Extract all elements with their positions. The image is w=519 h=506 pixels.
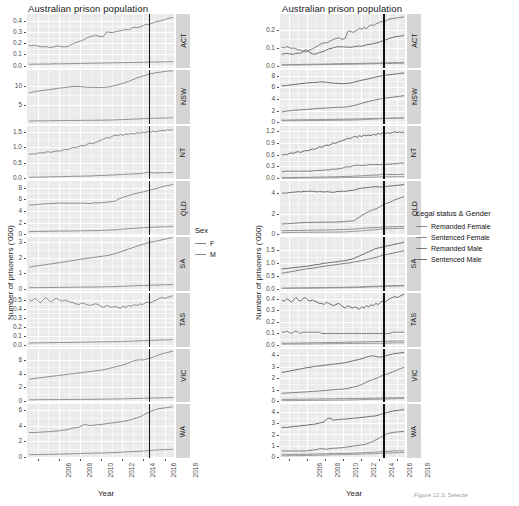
y-axis-tick-label: 0.5	[4, 159, 22, 166]
series-line-remanded-male	[282, 95, 404, 111]
annotation-vertical-line	[149, 349, 151, 403]
y-axis-tick-label: 0.1	[4, 50, 22, 57]
x-axis-tick-label: 2018	[192, 463, 199, 487]
y-axis-tick-label: 4	[257, 351, 275, 358]
y-axis-tick-mark	[24, 374, 26, 375]
facet-panel-act	[27, 14, 174, 68]
y-axis-tick-label: 8	[4, 184, 22, 191]
y-axis-tick-mark	[277, 299, 279, 300]
facet-strip-qld: QLD	[176, 181, 190, 235]
y-axis-tick-label: 1.0	[4, 143, 22, 150]
annotation-vertical-line	[383, 181, 385, 235]
facet-panel-sa	[280, 237, 405, 291]
facet-panel-nsw	[280, 70, 405, 124]
y-axis-tick-label: 4	[4, 370, 22, 377]
x-axis-tick-label: 2010	[352, 463, 359, 487]
plot-area	[280, 404, 405, 458]
facet-strip-act: ACT	[176, 14, 190, 68]
y-axis-tick-label: 0	[4, 397, 22, 404]
facet-strip-nsw: NSW	[176, 70, 190, 124]
y-axis-tick-label: 0.0	[257, 341, 275, 348]
x-axis-tick-mark	[101, 459, 102, 461]
series-line-m	[29, 407, 173, 433]
plot-area	[27, 126, 174, 180]
y-axis-tick-mark	[277, 234, 279, 235]
facet-panel-nt	[280, 126, 405, 180]
plot-area	[280, 70, 405, 124]
facet-strip-label: WA	[410, 425, 417, 436]
legend-key-swatch	[416, 237, 427, 239]
series-line-sentenced-male	[282, 131, 404, 154]
facet-strip-label: ACT	[411, 34, 418, 49]
y-axis-tick-label: 6	[4, 406, 22, 413]
series-line-f	[29, 118, 173, 121]
y-axis-tick-mark	[24, 147, 26, 148]
y-axis-tick-label: 0.2	[4, 323, 22, 330]
x-axis-tick-label: 2016	[170, 463, 177, 487]
right-plot-x-axis-title: Year	[346, 489, 362, 498]
y-axis-tick-mark	[24, 66, 26, 67]
y-axis-tick-mark	[277, 423, 279, 424]
y-axis-tick-label: 0.4	[4, 17, 22, 24]
y-axis-tick-label: 0	[257, 397, 275, 404]
plot-area	[27, 14, 174, 68]
annotation-vertical-line	[149, 181, 151, 235]
series-layer	[27, 237, 174, 291]
y-axis-tick-mark	[277, 99, 279, 100]
plot-area	[280, 14, 405, 68]
y-axis-tick-mark	[277, 66, 279, 67]
series-layer	[27, 404, 174, 458]
y-axis-tick-label: 0.1	[4, 332, 22, 339]
x-axis-tick-label: 2016	[406, 463, 413, 487]
y-axis-tick-mark	[277, 111, 279, 112]
y-axis-tick-label: 0	[4, 285, 22, 292]
y-axis-tick-mark	[277, 193, 279, 194]
legend-item[interactable]: F	[195, 238, 216, 249]
y-axis-tick-mark	[24, 300, 26, 301]
y-axis-tick-mark	[24, 54, 26, 55]
y-axis-tick-label: 0.6	[257, 151, 275, 158]
y-axis-tick-mark	[277, 310, 279, 311]
annotation-vertical-line	[383, 237, 385, 291]
legend-item[interactable]: Sentenced Female	[416, 232, 491, 243]
y-axis-tick-label: 0	[4, 453, 22, 460]
y-axis-tick-label: 0.2	[257, 318, 275, 325]
y-axis-tick-mark	[277, 289, 279, 290]
series-layer	[280, 70, 405, 124]
legend-title: Legal status & Gender	[416, 209, 491, 218]
series-layer	[27, 126, 174, 180]
legend-item-label: F	[210, 240, 214, 247]
series-layer	[280, 14, 405, 68]
y-axis-tick-label: 10	[4, 82, 22, 89]
y-axis-tick-mark	[277, 367, 279, 368]
y-axis-tick-mark	[24, 234, 26, 235]
series-line-sentenced-male	[282, 185, 404, 194]
legend-item[interactable]: Sentenced Male	[416, 254, 491, 265]
plot-area	[280, 293, 405, 347]
x-axis-tick-mark	[343, 459, 344, 461]
y-axis-tick-mark	[277, 122, 279, 123]
y-axis-tick-mark	[24, 410, 26, 411]
legend-item[interactable]: Remanded Male	[416, 243, 491, 254]
x-axis-tick-label: 2010	[107, 463, 114, 487]
y-axis-tick-mark	[277, 412, 279, 413]
annotation-vertical-line	[383, 293, 385, 347]
y-axis-tick-mark	[24, 258, 26, 259]
figure-caption: Figure 12.3: Selecte	[414, 492, 468, 498]
y-axis-tick-label: 0.3	[257, 306, 275, 313]
y-axis-tick-label: 0.5	[257, 272, 275, 279]
series-line-f	[29, 285, 173, 288]
annotation-vertical-line	[149, 14, 151, 68]
facet-panel-qld	[27, 181, 174, 235]
annotation-vertical-line	[383, 70, 385, 124]
y-axis-tick-mark	[24, 105, 26, 106]
y-axis-tick-mark	[277, 76, 279, 77]
y-axis-tick-label: 0.3	[4, 314, 22, 321]
legend-key-swatch	[416, 248, 427, 250]
legend-item[interactable]: M	[195, 249, 216, 260]
y-axis-tick-mark	[277, 155, 279, 156]
y-axis-tick-label: 3	[4, 238, 22, 245]
y-axis-tick-label: 2	[257, 107, 275, 114]
series-layer	[27, 349, 174, 403]
legend-item[interactable]: Remanded Female	[416, 221, 491, 232]
